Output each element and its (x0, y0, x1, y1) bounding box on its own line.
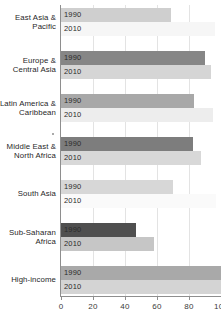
x-tick-label-40: 40 (120, 302, 129, 311)
category-label-line: High-income (0, 275, 56, 285)
bar-series-label: 2010 (64, 239, 82, 249)
bar-series-label: 1990 (64, 53, 82, 63)
bar-1990[interactable]: 1990 (61, 266, 221, 280)
category-label-line: Latin America & (0, 99, 56, 109)
category-label-line: Europe & (0, 56, 56, 66)
bar-1990[interactable]: 1990 (61, 223, 136, 237)
x-tick-label-20: 20 (88, 302, 97, 311)
category-label: Europe &Central Asia (0, 56, 56, 75)
category-label-line: Sub-Saharan (0, 228, 56, 238)
x-tick-0 (61, 296, 62, 300)
x-tick-label-100: 100 (214, 302, 221, 311)
bar-group: 19902010 (61, 94, 221, 122)
category-label-line: Africa (0, 237, 56, 247)
category-label: Latin America &Caribbean (0, 99, 56, 118)
category-label: Middle East &North Africa (0, 142, 56, 161)
bar-1990[interactable]: 1990 (61, 8, 171, 22)
bar-2010[interactable]: 2010 (61, 65, 211, 79)
x-tick-20 (93, 296, 94, 300)
bar-2010[interactable]: 2010 (61, 108, 213, 122)
category-label-line: Central Asia (0, 65, 56, 75)
bar-2010[interactable]: 2010 (61, 280, 221, 294)
x-tick-label-0: 0 (59, 302, 64, 311)
category-label-line: Pacific (0, 22, 56, 32)
x-tick-label-80: 80 (184, 302, 193, 311)
bar-2010[interactable]: 2010 (61, 151, 201, 165)
bar-chart: 020406080100 199020101990201019902010199… (0, 0, 221, 324)
bar-group: 19902010 (61, 223, 221, 251)
category-label-line: North Africa (0, 151, 56, 161)
category-label: High-income (0, 275, 56, 285)
bar-series-label: 2010 (64, 282, 82, 292)
bar-series-label: 1990 (64, 96, 82, 106)
bar-series-label: 2010 (64, 110, 82, 120)
bar-2010[interactable]: 2010 (61, 22, 215, 36)
bar-group: 19902010 (61, 137, 221, 165)
bar-series-label: 2010 (64, 196, 82, 206)
bar-1990[interactable]: 1990 (61, 94, 194, 108)
bar-group: 19902010 (61, 266, 221, 294)
bar-1990[interactable]: 1990 (61, 51, 205, 65)
bar-group: 19902010 (61, 51, 221, 79)
bar-2010[interactable]: 2010 (61, 237, 154, 251)
category-label: East Asia &Pacific (0, 13, 56, 32)
bar-series-label: 2010 (64, 24, 82, 34)
category-label: Sub-SaharanAfrica (0, 228, 56, 247)
bar-groups: 1990201019902010199020101990201019902010… (61, 5, 221, 296)
x-tick-label-60: 60 (152, 302, 161, 311)
x-tick-40 (125, 296, 126, 300)
bar-series-label: 1990 (64, 225, 82, 235)
x-tick-60 (157, 296, 158, 300)
bar-series-label: 1990 (64, 268, 82, 278)
category-label-line: South Asia (0, 189, 56, 199)
bar-series-label: 1990 (64, 10, 82, 20)
x-tick-80 (189, 296, 190, 300)
bar-2010[interactable]: 2010 (61, 194, 216, 208)
bar-1990[interactable]: 1990 (61, 180, 173, 194)
category-label-line: Middle East & (0, 142, 56, 152)
stray-mark (52, 133, 54, 135)
category-label-line: East Asia & (0, 13, 56, 23)
x-axis-line (60, 296, 221, 297)
bar-group: 19902010 (61, 180, 221, 208)
bar-group: 19902010 (61, 8, 221, 36)
bar-1990[interactable]: 1990 (61, 137, 193, 151)
category-label: South Asia (0, 189, 56, 199)
bar-series-label: 2010 (64, 153, 82, 163)
bar-series-label: 1990 (64, 139, 82, 149)
category-label-line: Caribbean (0, 108, 56, 118)
bar-series-label: 2010 (64, 67, 82, 77)
bar-series-label: 1990 (64, 182, 82, 192)
